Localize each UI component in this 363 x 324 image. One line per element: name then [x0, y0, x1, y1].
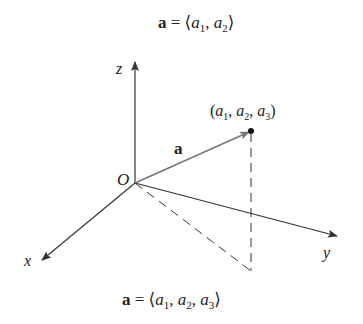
vector-label: a	[174, 139, 183, 158]
projection-line-base	[135, 183, 251, 271]
vector-a	[135, 132, 249, 183]
vector-3d-diagram: a = ⟨a1, a2⟩ z x y O a (a1, a2, a3) a = …	[0, 0, 363, 324]
x-label: x	[23, 252, 31, 269]
x-axis	[42, 183, 135, 260]
y-axis	[135, 183, 337, 236]
origin-label: O	[117, 170, 129, 189]
z-label: z	[115, 60, 123, 77]
point-dot	[248, 128, 254, 134]
top-caption: a = ⟨a1, a2⟩	[158, 13, 234, 34]
point-label: (a1, a2, a3)	[210, 102, 276, 122]
bottom-caption: a = ⟨a1, a2, a3⟩	[122, 290, 221, 311]
y-label: y	[321, 244, 331, 262]
